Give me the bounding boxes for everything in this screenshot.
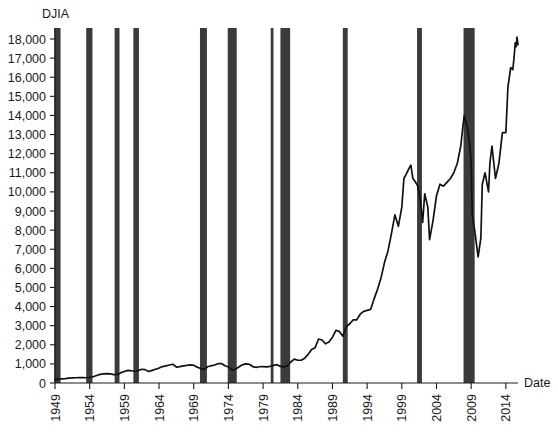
- y-tick-label: 15,000: [8, 90, 46, 104]
- y-tick-label: 2,000: [15, 338, 46, 352]
- y-tick-label: 16,000: [8, 71, 46, 85]
- y-tick-label: 9,000: [15, 205, 46, 219]
- recession-band: [200, 28, 207, 383]
- recession-band: [271, 28, 274, 383]
- y-tick-label: 7,000: [15, 243, 46, 257]
- djia-chart: 01,0002,0003,0004,0005,0006,0007,0008,00…: [0, 0, 558, 437]
- y-tick-label: 4,000: [15, 300, 46, 314]
- y-tick-label: 1,000: [15, 357, 46, 371]
- x-tick-label: 1984: [291, 394, 305, 422]
- recession-band: [280, 28, 290, 383]
- recession-band: [86, 28, 92, 383]
- x-tick-label: 1994: [361, 394, 375, 422]
- chart-canvas: 01,0002,0003,0004,0005,0006,0007,0008,00…: [0, 0, 558, 437]
- y-tick-label: 3,000: [15, 319, 46, 333]
- y-tick-label: 18,000: [8, 33, 46, 47]
- y-tick-label: 13,000: [8, 128, 46, 142]
- x-tick-label: 2009: [465, 394, 479, 422]
- y-tick-label: 12,000: [8, 147, 46, 161]
- recession-band: [133, 28, 139, 383]
- y-tick-label: 6,000: [15, 262, 46, 276]
- x-tick-label: 1949: [49, 394, 63, 422]
- x-tick-label: 1964: [153, 394, 167, 422]
- recession-band: [115, 28, 120, 383]
- recession-band: [464, 28, 475, 383]
- x-tick-label: 1999: [395, 394, 409, 422]
- x-tick-label: 2004: [430, 394, 444, 422]
- x-tick-label: 1979: [257, 394, 271, 422]
- x-tick-label: 1959: [118, 394, 132, 422]
- recession-band: [228, 28, 237, 383]
- x-tick-label: 1974: [222, 394, 236, 422]
- y-tick-label: 0: [39, 377, 46, 391]
- y-tick-label: 14,000: [8, 109, 46, 123]
- y-tick-label: 10,000: [8, 185, 46, 199]
- y-tick-label: 11,000: [9, 166, 46, 180]
- y-tick-label: 8,000: [15, 224, 46, 238]
- x-tick-label: 1969: [187, 394, 201, 422]
- x-tick-label: 1989: [326, 394, 340, 422]
- x-axis-title: Date: [524, 376, 550, 390]
- y-tick-label: 17,000: [8, 52, 46, 66]
- x-tick-label: 2014: [499, 394, 513, 422]
- y-axis-title: DJIA: [42, 7, 70, 21]
- y-tick-label: 5,000: [15, 281, 46, 295]
- x-tick-label: 1954: [83, 394, 97, 422]
